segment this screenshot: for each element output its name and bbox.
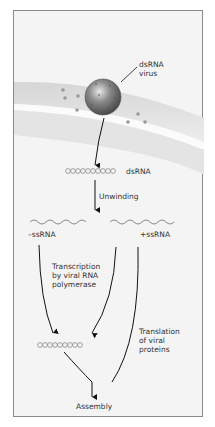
plus-to-assembly-arrow	[92, 247, 116, 333]
replication-diagram	[0, 0, 215, 427]
merge-arrow	[64, 352, 92, 382]
translation-arrow	[112, 247, 138, 382]
plus-ssrna-label: +ssRNA	[140, 230, 170, 239]
progeny-dsrna-coil-icon	[38, 343, 83, 348]
virus-label-line1: dsRNA	[139, 60, 164, 69]
transcription-label: Transcription by viral RNA polymerase	[52, 262, 100, 289]
minus-ssrna-label: –ssRNA	[28, 230, 56, 239]
unwinding-label: Unwinding	[99, 192, 139, 201]
plus-ssrna-wave-icon	[110, 220, 174, 224]
assembly-label: Assembly	[76, 402, 112, 411]
translation-line1: Translation	[139, 327, 180, 336]
dsrna-coil-icon	[66, 169, 116, 174]
transcription-line2: by viral RNA	[52, 271, 100, 280]
virus-label-line2: virus	[139, 69, 164, 78]
translation-line2: of viral	[139, 336, 180, 345]
virus-label: dsRNA virus	[139, 60, 164, 78]
transcription-line3: polymerase	[52, 280, 100, 289]
transcription-line1: Transcription	[52, 262, 100, 271]
translation-label: Translation of viral proteins	[139, 327, 180, 354]
dsrna-label: dsRNA	[126, 167, 151, 176]
pathway-arrows	[39, 118, 138, 397]
transcription-arrow	[39, 245, 53, 333]
minus-ssrna-wave-icon	[30, 220, 86, 224]
translation-line3: proteins	[139, 345, 180, 354]
